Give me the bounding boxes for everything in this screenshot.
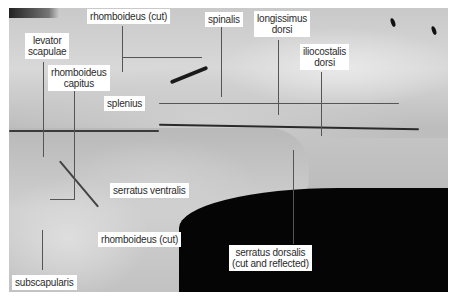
label-text: longissimus (257, 13, 307, 24)
label-text: subscapularis (15, 277, 74, 288)
muscle-groove (159, 103, 399, 104)
label-text: spinalis (208, 14, 240, 25)
label-rhomboideus-cut-top: rhomboideus (cut) (87, 9, 170, 24)
label-text: rhomboideus (51, 67, 107, 78)
leader-line (122, 57, 202, 58)
label-text: dorsi (257, 24, 307, 35)
label-text: serratus ventralis (113, 185, 186, 196)
label-rhomboideus-cut-bottom: rhomboideus (cut) (98, 232, 181, 247)
label-text: iliocostalis (303, 46, 346, 57)
leader-line (43, 62, 44, 157)
label-text: rhomboideus (cut) (90, 11, 167, 22)
label-text: dorsi (303, 57, 346, 68)
leader-line (321, 72, 322, 136)
label-serratus-ventralis: serratus ventralis (110, 183, 189, 198)
label-longissimus-dorsi: longissimusdorsi (254, 11, 310, 37)
label-splenius: splenius (104, 96, 145, 111)
label-spinalis: spinalis (205, 12, 243, 27)
label-levator-scapulae: levatorscapulae (25, 33, 69, 59)
label-text: levator (28, 35, 66, 46)
label-text: scapulae (28, 46, 66, 57)
label-text: serratus dorsalis (232, 247, 309, 258)
label-text: rhomboideus (cut) (101, 234, 178, 245)
leader-line (122, 26, 123, 72)
leader-line (278, 40, 279, 115)
label-serratus-dorsalis: serratus dorsalis(cut and reflected) (229, 245, 312, 271)
label-text: capitus (51, 78, 107, 89)
label-text: (cut and reflected) (232, 258, 309, 269)
leader-line (50, 199, 75, 200)
muscle-groove (9, 130, 159, 132)
label-iliocostalis-dorsi: iliocostalisdorsi (300, 44, 349, 70)
label-text: splenius (107, 98, 142, 109)
leader-line (42, 230, 43, 270)
leader-line (221, 27, 222, 97)
leader-line (293, 150, 294, 244)
leader-line (74, 91, 75, 199)
label-rhomboideus-capitus: rhomboideuscapitus (48, 65, 110, 91)
background-void (179, 188, 448, 292)
dark-edge (9, 8, 59, 18)
label-subscapularis: subscapularis (12, 275, 77, 290)
